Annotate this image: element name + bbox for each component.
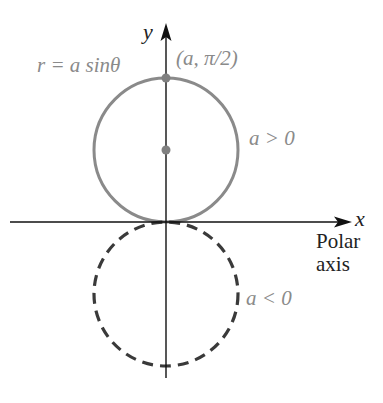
polar-circle-diagram: y x Polar axis r = a sinθ (a, π/2) a > 0… [0,0,383,403]
polar-axis-label-line1: Polar [316,231,360,252]
a-positive-label: a > 0 [249,128,295,149]
point-a-pi-over-2 [162,74,171,83]
y-axis-label: y [143,21,153,43]
x-axis-label: x [355,208,365,230]
polar-axis-label-line2: axis [316,254,350,275]
point-label: (a, π/2) [176,48,238,69]
point-center [162,146,171,155]
equation-label: r = a sinθ [37,55,120,76]
a-negative-label: a < 0 [246,288,292,309]
